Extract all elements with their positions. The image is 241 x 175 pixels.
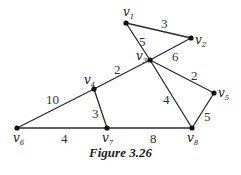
weight-v1-v2: 3 [161,16,168,31]
label-v2: v2 [195,33,207,49]
weight-v7-v8: 8 [150,131,157,146]
weight-v3-v8: 4 [163,92,170,107]
node-v1 [123,20,128,25]
node-v6 [14,125,19,130]
edge-v2-v3 [150,38,191,60]
weight-v2-v3: 6 [172,49,179,64]
edge-v3-v4 [94,60,150,89]
node-v5 [211,90,216,95]
weight-v1-v3: 5 [139,34,146,49]
edge-v1-v2 [126,23,191,38]
edge-v5-v8 [192,93,214,128]
weight-v3-v4: 2 [114,62,121,77]
label-v5: v5 [218,86,230,102]
weight-v4-v7: 3 [92,106,99,121]
label-v3: v3 [136,49,148,65]
weight-v5-v8: 5 [204,109,211,124]
node-v2 [188,35,193,40]
label-v1: v1 [123,5,134,21]
label-v4: v4 [84,73,95,89]
node-v3 [147,57,152,62]
weight-v3-v5: 2 [191,68,198,83]
weight-v4-v6: 10 [46,92,59,107]
node-v8 [189,125,194,130]
node-v7 [104,125,109,130]
weight-v6-v7: 4 [61,131,68,146]
figure-caption: Figure 3.26 [0,145,241,161]
weight-labels: 3 5 6 2 2 4 10 3 5 4 8 [46,16,211,146]
